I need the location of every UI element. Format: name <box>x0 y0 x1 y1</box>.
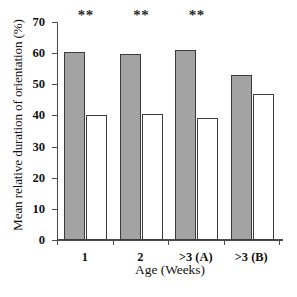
x-axis-tick <box>113 240 114 245</box>
x-axis-tick <box>279 240 280 245</box>
plot-area: 0102030405060701**2**>3 (A)**>3 (B) <box>57 22 279 240</box>
y-axis-tick-label: 70 <box>15 16 45 29</box>
y-axis-tick <box>52 53 57 54</box>
y-axis-tick-label: 60 <box>15 47 45 60</box>
x-axis-title: Age (Weeks) <box>57 262 283 278</box>
y-axis-line <box>57 22 58 240</box>
significance-annotation: ** <box>78 8 94 23</box>
significance-annotation: ** <box>189 8 205 23</box>
y-axis-tick-label: 0 <box>15 234 45 247</box>
significance-annotation: ** <box>133 8 149 23</box>
x-axis-tick <box>224 240 225 245</box>
y-axis-tick <box>52 22 57 23</box>
bar-chart-figure: Mean relative duration of orientation (%… <box>0 0 297 297</box>
bar-open <box>197 118 218 240</box>
y-axis-tick-label: 40 <box>15 109 45 122</box>
y-axis-tick-label: 20 <box>15 172 45 185</box>
bar-open <box>86 115 107 240</box>
y-axis-tick <box>52 209 57 210</box>
bar-open <box>253 94 274 240</box>
y-axis-tick-label: 30 <box>15 141 45 154</box>
bar-filled <box>231 75 252 240</box>
y-axis-tick-label: 10 <box>15 203 45 216</box>
y-axis-tick <box>52 178 57 179</box>
bar-filled <box>64 52 85 240</box>
bar-filled <box>175 50 196 240</box>
y-axis-tick <box>52 84 57 85</box>
bar-filled <box>120 54 141 240</box>
y-axis-tick-label: 50 <box>15 78 45 91</box>
bar-open <box>142 114 163 240</box>
y-axis-tick <box>52 147 57 148</box>
x-axis-tick <box>168 240 169 245</box>
x-axis-tick <box>57 240 58 245</box>
y-axis-tick <box>52 115 57 116</box>
